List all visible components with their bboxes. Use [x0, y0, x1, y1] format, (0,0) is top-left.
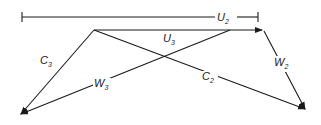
u3-label: U3 [163, 32, 175, 46]
u2-label: U2 [217, 11, 229, 25]
c3-vector [21, 30, 94, 114]
w3-vector [21, 30, 230, 114]
u2-dimension: U2 [22, 11, 258, 25]
c3-label: C3 [40, 54, 52, 68]
velocity-diagram: U2 U3 C3 W3 C2 W2 [0, 0, 321, 125]
